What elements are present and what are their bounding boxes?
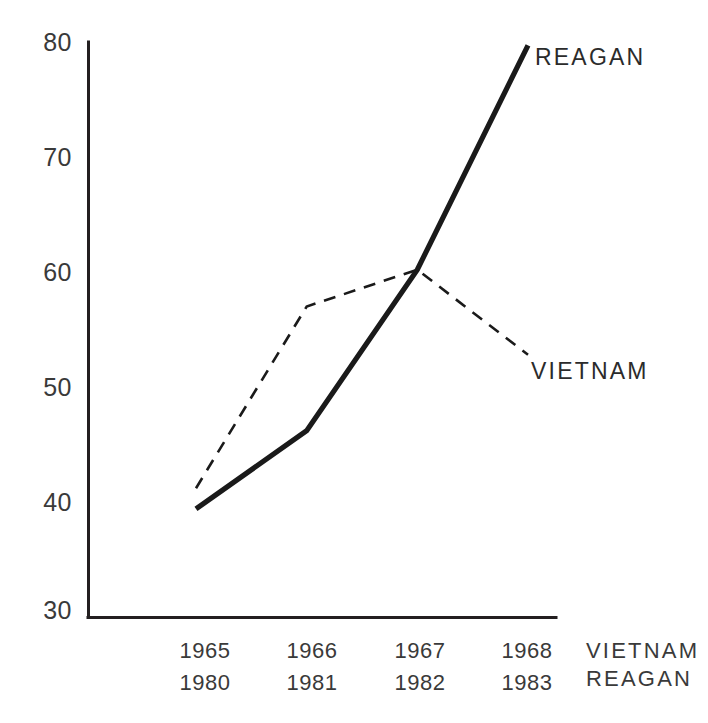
y-tick-label-30: 30 bbox=[14, 596, 72, 625]
y-tick-label-70: 70 bbox=[14, 143, 72, 172]
x-axis-row-legend-reagan: REAGAN bbox=[586, 666, 692, 692]
x-tick-column-3: 1967 1982 bbox=[372, 638, 468, 696]
series-line-reagan bbox=[196, 45, 528, 509]
x-tick-label-1982: 1982 bbox=[372, 670, 468, 696]
series-line-vietnam bbox=[196, 270, 528, 489]
series-annotation-vietnam: VIETNAM bbox=[531, 358, 649, 385]
x-tick-column-1: 1965 1980 bbox=[157, 638, 253, 696]
x-tick-label-1966: 1966 bbox=[264, 638, 360, 664]
x-tick-label-1968: 1968 bbox=[479, 638, 575, 664]
x-tick-column-4: 1968 1983 bbox=[479, 638, 575, 696]
x-tick-label-1967: 1967 bbox=[372, 638, 468, 664]
x-tick-label-1983: 1983 bbox=[479, 670, 575, 696]
series-annotation-reagan: REAGAN bbox=[535, 44, 645, 71]
x-tick-label-1980: 1980 bbox=[157, 670, 253, 696]
y-tick-label-80: 80 bbox=[14, 28, 72, 57]
y-tick-label-40: 40 bbox=[14, 488, 72, 517]
x-axis-row-legend-vietnam: VIETNAM bbox=[586, 638, 699, 664]
y-tick-label-60: 60 bbox=[14, 258, 72, 287]
x-tick-label-1981: 1981 bbox=[264, 670, 360, 696]
y-tick-label-50: 50 bbox=[14, 373, 72, 402]
x-tick-column-2: 1966 1981 bbox=[264, 638, 360, 696]
line-chart: 80 70 60 50 40 30 1965 1980 1966 1981 19… bbox=[0, 0, 708, 723]
x-tick-label-1965: 1965 bbox=[157, 638, 253, 664]
